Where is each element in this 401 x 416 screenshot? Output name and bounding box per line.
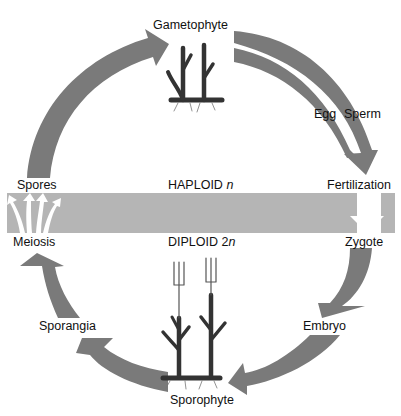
gametophyte-plant-icon — [168, 45, 222, 112]
diploid-text: DIPLOID — [168, 235, 218, 249]
zygote-to-embryo-arrow — [318, 248, 372, 318]
label-sporophyte: Sporophyte — [170, 393, 234, 407]
sperm-arrow — [234, 31, 378, 175]
haploid-text: HAPLOID — [168, 178, 223, 192]
spores-to-gametophyte-arrow — [27, 29, 169, 178]
label-spores: Spores — [17, 178, 57, 192]
label-haploid: HAPLOID n — [168, 178, 233, 192]
life-cycle-diagram — [0, 0, 401, 416]
haploid-symbol: n — [226, 178, 233, 192]
label-fertilization: Fertilization — [327, 178, 391, 192]
label-gametophyte: Gametophyte — [153, 18, 228, 32]
sporangia-to-meiosis-arrow — [20, 253, 80, 318]
label-zygote: Zygote — [345, 235, 383, 249]
label-meiosis: Meiosis — [13, 235, 55, 249]
sporophyte-plant-icon — [163, 258, 225, 389]
sporophyte-to-sporangia-arrow — [76, 338, 168, 392]
ploidy-band — [7, 193, 395, 233]
label-embryo: Embryo — [303, 319, 346, 333]
label-diploid: DIPLOID 2n — [168, 235, 235, 249]
embryo-to-sporophyte-arrow — [228, 335, 340, 395]
label-sperm: Sperm — [344, 107, 381, 121]
diploid-symbol: n — [228, 235, 235, 249]
label-egg: Egg — [314, 107, 336, 121]
label-sporangia: Sporangia — [39, 319, 96, 333]
